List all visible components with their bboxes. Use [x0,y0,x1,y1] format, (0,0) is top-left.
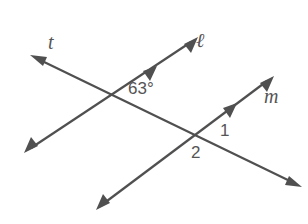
line-l [24,37,198,153]
label-l: ℓ [196,30,204,50]
arrowhead-l-lower-left-icon [24,137,38,153]
line-m [96,76,274,210]
parallel-mark-m-icon [223,103,237,118]
arrowhead-t-lower-right-icon [285,176,302,187]
label-t: t [48,32,54,52]
arrowhead-t-upper-left-icon [30,55,47,66]
arrowhead-m-lower-left-icon [96,194,110,210]
label-angle-63: 63° [128,80,154,97]
parallel-lines-diagram: t ℓ m 63° 1 2 [0,0,308,224]
label-angle-1: 1 [220,122,229,139]
diagram-canvas [0,0,308,224]
label-m: m [264,86,278,106]
label-angle-2: 2 [191,144,200,161]
